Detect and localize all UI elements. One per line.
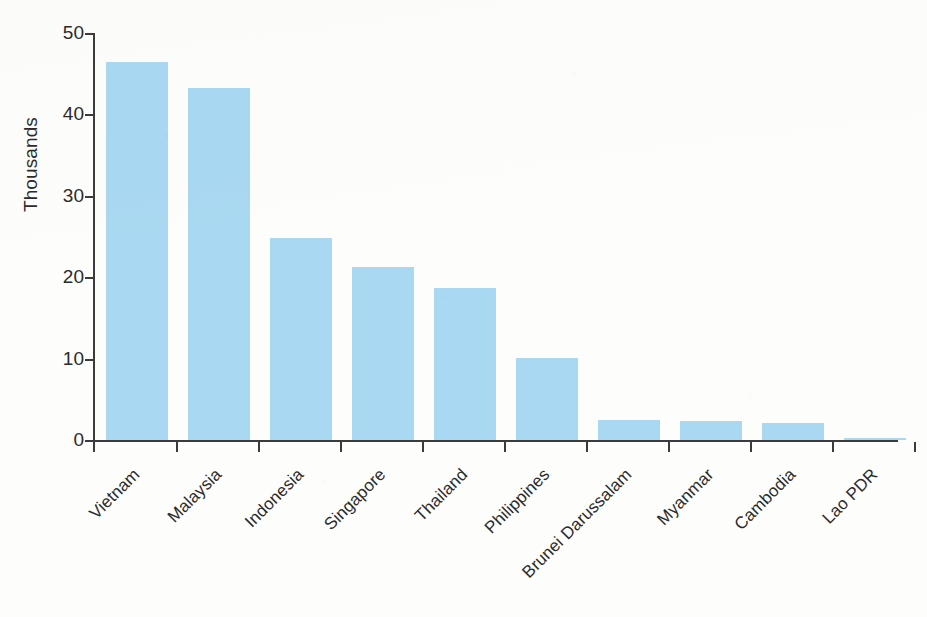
bar bbox=[106, 62, 168, 441]
bar bbox=[762, 423, 824, 440]
bar-series bbox=[0, 0, 927, 617]
bar bbox=[434, 288, 496, 440]
bar bbox=[270, 238, 332, 440]
bar-chart: Thousands 01020304050 VietnamMalaysiaInd… bbox=[0, 0, 927, 617]
bar bbox=[680, 421, 742, 440]
bar bbox=[844, 438, 906, 440]
bar bbox=[516, 358, 578, 440]
bar bbox=[188, 88, 250, 440]
bar bbox=[598, 420, 660, 440]
bar bbox=[352, 267, 414, 440]
